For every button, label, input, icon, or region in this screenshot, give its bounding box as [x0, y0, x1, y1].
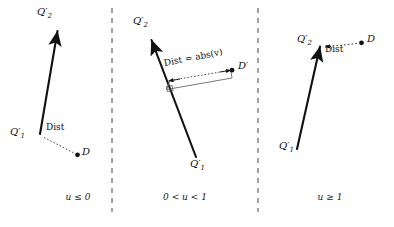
panel-3-label-q1: Q′1 — [279, 140, 294, 154]
panel-2-label-q2: Q′2 — [133, 15, 148, 29]
panel-2-point-d-dot — [230, 68, 235, 73]
panel-3-label-q2: Q′2 — [297, 33, 312, 47]
panel-3-graphics — [297, 40, 364, 149]
panel-2-label-q1: Q′1 — [190, 158, 205, 172]
panel-2-measure-arrow-right — [220, 70, 231, 72]
panel-1-dist-dotted-line — [44, 138, 74, 154]
panel-2-caption: 0 < u < 1 — [163, 192, 207, 202]
panel-3-caption: u ≥ 1 — [318, 192, 343, 202]
panel-3-point-d-dot — [359, 40, 364, 45]
panel-2-label-d: D′ — [238, 60, 248, 71]
distance-cases-figure: Q′2 Q′1 Dist D u ≤ 0 Q′2 Q′1 Dist = abs(… — [0, 0, 394, 227]
panel-1-graphics — [40, 31, 80, 157]
panel-1-segment-arrow — [40, 31, 58, 134]
panel-1-label-q1: Q′1 — [10, 126, 25, 140]
panel-3-label-dist: Dist — [325, 44, 343, 54]
panel-1-label-dist: Dist — [46, 122, 64, 132]
panel-1-point-d-dot — [75, 152, 80, 157]
panel-1-caption: u ≤ 0 — [66, 192, 91, 202]
panel-3-label-d: D — [367, 33, 375, 44]
panel-1-label-q2: Q′2 — [37, 6, 52, 20]
panel-3-segment-arrow — [297, 47, 320, 150]
panel-1-label-d: D — [82, 146, 90, 157]
